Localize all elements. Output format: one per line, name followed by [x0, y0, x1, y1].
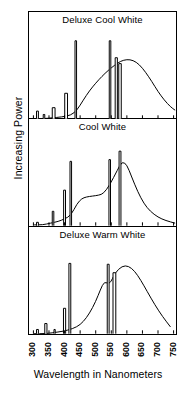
emission-spike [37, 111, 39, 119]
emission-spike [70, 161, 72, 225]
emission-spike [107, 264, 109, 333]
spectrum-plot-deluxe-cool-white [29, 12, 178, 120]
x-tick-label: 550 [105, 337, 116, 363]
emission-spike [54, 329, 55, 333]
x-tick-label: 300 [27, 337, 38, 363]
emission-spike [115, 58, 117, 119]
x-tick-label: 600 [120, 337, 131, 363]
emission-spike [69, 263, 71, 333]
x-tick-label: 350 [42, 337, 53, 363]
x-tick-label: 400 [58, 337, 69, 363]
spectral-power-distribution-figure: Increasing Power Deluxe Cool White Cool … [0, 0, 196, 394]
panel-stack: Deluxe Cool White Cool White Deluxe Warm… [28, 11, 177, 335]
emission-spike [52, 108, 55, 119]
panel-cool-white: Cool White [28, 119, 177, 227]
spectrum-plot-deluxe-warm-white [29, 227, 178, 335]
x-axis-tick-labels: 300350400450500550600650700750 [28, 336, 177, 362]
emission-spike [63, 308, 65, 333]
panel-deluxe-cool-white: Deluxe Cool White [28, 11, 177, 119]
emission-spike [119, 64, 121, 119]
emission-spike [109, 41, 111, 119]
x-axis-label: Wavelength in Nanometers [0, 368, 196, 380]
x-tick-label: 500 [89, 337, 100, 363]
emission-spike [75, 41, 77, 119]
continuum-curve [33, 266, 170, 334]
x-tick-label: 700 [152, 337, 163, 363]
emission-spike [119, 151, 121, 226]
emission-spike [45, 324, 47, 334]
spectrum-plot-cool-white [29, 119, 178, 227]
x-tick-label: 450 [74, 337, 85, 363]
x-tick-label: 750 [167, 337, 178, 363]
emission-spike [37, 329, 39, 333]
panel-deluxe-warm-white: Deluxe Warm White [28, 227, 177, 335]
emission-spike [37, 222, 39, 225]
emission-spike [64, 190, 66, 226]
emission-spike [109, 160, 111, 226]
emission-spike [113, 273, 116, 334]
continuum-curve [33, 163, 175, 225]
x-tick-label: 650 [136, 337, 147, 363]
y-axis-label: Increasing Power [12, 78, 28, 198]
emission-spike [52, 211, 54, 225]
emission-spike [65, 93, 68, 118]
